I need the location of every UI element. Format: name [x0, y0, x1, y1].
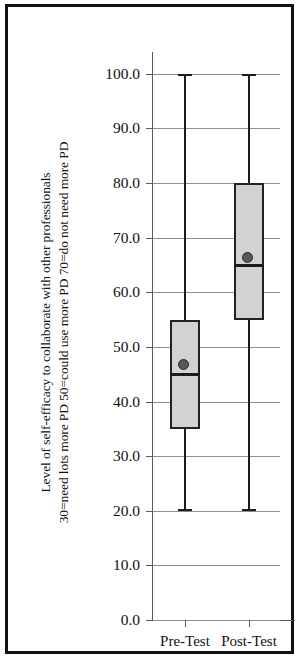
y-tick-label: 50.0 — [82, 338, 140, 356]
median-line — [170, 373, 200, 376]
mean-marker-dot — [178, 359, 189, 370]
y-tick-label: 10.0 — [82, 556, 140, 574]
whisker-cap-lower — [242, 509, 256, 511]
whisker-cap-upper — [242, 74, 256, 76]
y-tick-mark — [146, 347, 153, 348]
whisker-cap-upper — [178, 74, 192, 76]
y-tick-mark — [146, 74, 153, 75]
figure-canvas: Level of self-efficacy to collaborate wi… — [0, 0, 299, 658]
figure-border-frame: Level of self-efficacy to collaborate wi… — [5, 4, 294, 654]
y-tick-label: 20.0 — [82, 502, 140, 520]
whisker-cap-lower — [178, 509, 192, 511]
median-line — [234, 264, 264, 267]
gridline-30-0 — [152, 456, 280, 457]
x-category-label-post-test: Post-Test — [204, 633, 294, 650]
y-tick-label: 60.0 — [82, 283, 140, 301]
y-tick-mark — [146, 511, 153, 512]
y-tick-label: 80.0 — [82, 174, 140, 192]
y-tick-label: 0.0 — [82, 611, 140, 629]
y-tick-mark — [146, 183, 153, 184]
y-tick-mark — [146, 402, 153, 403]
y-axis-line — [152, 52, 153, 620]
gridline-20-0 — [152, 511, 280, 512]
figure-inner-area: Level of self-efficacy to collaborate wi… — [8, 7, 291, 651]
gridline-90-0 — [152, 128, 280, 129]
y-tick-mark — [146, 565, 153, 566]
plot-area: 0.010.020.030.040.050.060.070.080.090.01… — [152, 52, 280, 620]
whisker-line — [184, 74, 186, 511]
y-axis-title: Level of self-efficacy to collaborate wi… — [21, 45, 83, 620]
y-tick-label: 70.0 — [82, 229, 140, 247]
y-tick-label: 90.0 — [82, 119, 140, 137]
y-tick-mark — [146, 620, 153, 621]
mean-marker-dot — [242, 252, 253, 263]
x-tick-mark — [185, 620, 186, 627]
y-tick-label: 40.0 — [82, 393, 140, 411]
y-tick-mark — [146, 456, 153, 457]
y-tick-mark — [146, 238, 153, 239]
gridline-10-0 — [152, 565, 280, 566]
y-tick-mark — [146, 128, 153, 129]
x-tick-mark — [249, 620, 250, 627]
y-tick-label: 100.0 — [82, 65, 140, 83]
gridline-0-0 — [152, 620, 280, 621]
y-tick-label: 30.0 — [82, 447, 140, 465]
gridline-100-0 — [152, 74, 280, 75]
y-tick-mark — [146, 292, 153, 293]
